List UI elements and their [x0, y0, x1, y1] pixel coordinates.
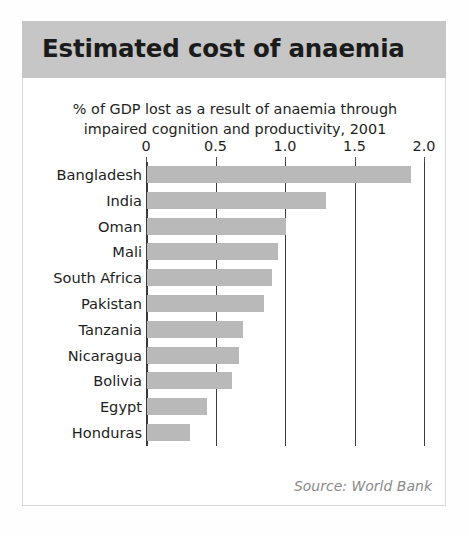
- bar: [147, 398, 207, 415]
- bar: [147, 243, 278, 260]
- plot-body: [146, 162, 424, 446]
- bar: [147, 192, 326, 209]
- category-label: Bolivia: [23, 372, 142, 389]
- bar: [147, 372, 232, 389]
- category-axis-labels: BangladeshIndiaOmanMaliSouth AfricaPakis…: [23, 162, 142, 446]
- bar: [147, 321, 243, 338]
- bar-row: [146, 317, 424, 343]
- x-tick-mark: [424, 157, 425, 162]
- x-tick-label: 0: [141, 138, 150, 154]
- plot-card: % of GDP lost as a result of anaemia thr…: [22, 78, 446, 506]
- category-label: Tanzania: [23, 321, 142, 338]
- category-label: Oman: [23, 218, 142, 235]
- x-tick-mark: [146, 157, 147, 162]
- bar-row: [146, 265, 424, 291]
- bar-row: [146, 162, 424, 188]
- bar: [147, 269, 272, 286]
- bar-row: [146, 343, 424, 369]
- x-tick-mark: [216, 157, 217, 162]
- x-tick-label: 0.5: [204, 138, 227, 154]
- bar-row: [146, 291, 424, 317]
- bar: [147, 166, 411, 183]
- page-title: Estimated cost of anaemia: [42, 34, 405, 63]
- bar: [147, 295, 264, 312]
- figure-root: Estimated cost of anaemia % of GDP lost …: [0, 0, 469, 536]
- x-tick-mark: [285, 157, 286, 162]
- category-label: India: [23, 192, 142, 209]
- category-label: South Africa: [23, 269, 142, 286]
- bar-row: [146, 420, 424, 446]
- bar: [147, 347, 239, 364]
- source-note: Source: World Bank: [294, 478, 432, 494]
- bar-row: [146, 239, 424, 265]
- category-label: Pakistan: [23, 295, 142, 312]
- category-label: Mali: [23, 243, 142, 260]
- x-tick-label: 1.0: [274, 138, 297, 154]
- bar: [147, 424, 190, 441]
- chart-plot-area: 00.51.01.52.0 BangladeshIndiaOmanMaliSou…: [23, 78, 447, 506]
- category-label: Honduras: [23, 424, 142, 441]
- category-label: Nicaragua: [23, 347, 142, 364]
- bar: [147, 218, 286, 235]
- x-tick-label: 1.5: [343, 138, 366, 154]
- x-tick-label: 2.0: [413, 138, 436, 154]
- x-tick-mark: [355, 157, 356, 162]
- bar-group: [146, 162, 424, 446]
- category-label: Egypt: [23, 398, 142, 415]
- gridline: [424, 162, 425, 446]
- category-label: Bangladesh: [23, 166, 142, 183]
- chart-card: Estimated cost of anaemia % of GDP lost …: [22, 21, 446, 506]
- bar-row: [146, 214, 424, 240]
- x-axis-tick-labels: 00.51.01.52.0: [23, 138, 447, 156]
- bar-row: [146, 394, 424, 420]
- title-band: Estimated cost of anaemia: [22, 21, 446, 78]
- bar-row: [146, 368, 424, 394]
- bar-row: [146, 188, 424, 214]
